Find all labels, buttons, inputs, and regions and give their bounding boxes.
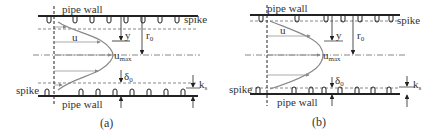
spike-label-right: spike (184, 14, 207, 25)
spike-label-right: spike (397, 15, 420, 26)
umax-label: umax (323, 50, 341, 63)
panel-a: pipe wall pipe wall spike spike u y r0 u… (0, 0, 217, 136)
top-wall-label: pipe wall (62, 4, 103, 15)
spike-label-left: spike (229, 84, 252, 95)
spike-label-left: spike (16, 85, 39, 96)
caption-a: (a) (100, 117, 113, 129)
delta0-label: δ0 (124, 71, 133, 84)
umax-label: umax (114, 50, 132, 63)
bottom-wall-label: pipe wall (277, 97, 318, 108)
r0-label: r0 (357, 30, 364, 43)
r0-label: r0 (146, 30, 153, 43)
delta0-label: δ0 (335, 75, 344, 88)
panel-b: pipe wall pipe wall spike spike u y r0 u… (217, 0, 434, 136)
bottom-wall-label: pipe wall (62, 99, 103, 110)
top-wall-label: pipe wall (267, 3, 308, 14)
u-label: u (280, 25, 286, 36)
caption-b: (b) (312, 116, 326, 128)
ks-label: ks (199, 79, 207, 92)
ks-label: ks (413, 79, 421, 92)
y-label: y (336, 30, 342, 41)
u-label: u (72, 32, 78, 43)
y-label: y (125, 30, 131, 41)
